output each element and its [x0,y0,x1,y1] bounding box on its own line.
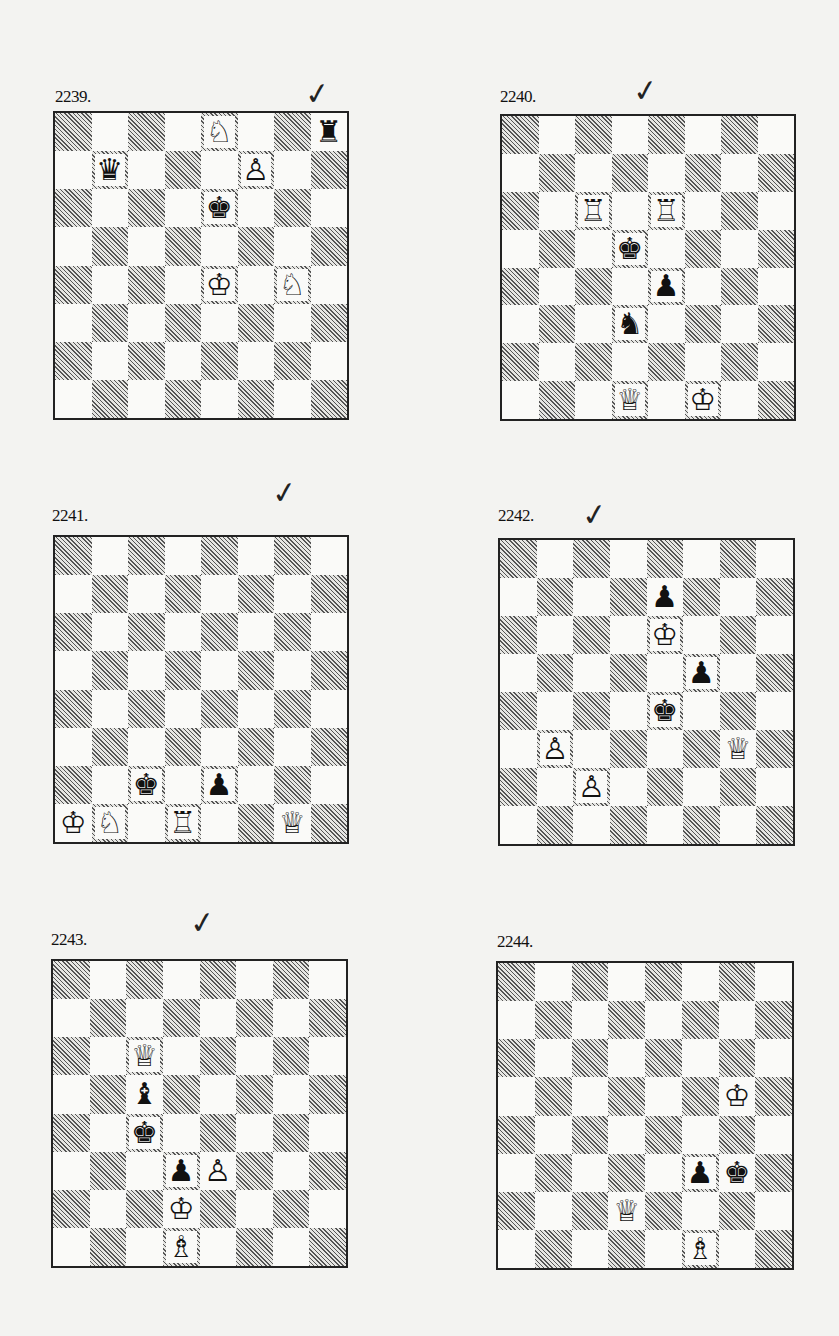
square-h6 [755,1039,792,1077]
square-c2: ♙ [573,768,610,806]
square-b8 [535,963,572,1001]
square-b5 [537,654,574,692]
square-c1 [126,1228,163,1266]
square-h5 [756,654,793,692]
square-d2 [612,343,649,381]
square-a3 [55,728,92,766]
square-d8 [608,963,645,1001]
check-mark-icon: ✓ [270,476,299,509]
square-g7 [721,154,758,192]
square-b7 [539,154,576,192]
square-e7 [648,154,685,192]
square-h1 [309,1228,346,1266]
square-g6 [719,1039,756,1077]
square-d1: ♗ [163,1228,200,1266]
square-h7 [311,151,348,189]
square-g8 [274,537,311,575]
square-a7 [55,151,92,189]
square-e1 [201,804,238,842]
square-e1 [201,380,238,418]
square-g2 [721,343,758,381]
square-h6 [756,616,793,654]
square-e3 [201,728,238,766]
square-g1 [274,380,311,418]
white-king-icon: ♔ [168,1194,195,1224]
square-a8 [498,963,535,1001]
square-b6 [90,1037,127,1075]
square-f6 [683,616,720,654]
square-d1 [610,806,647,844]
square-b2 [539,343,576,381]
square-a5 [55,227,92,265]
square-e1 [645,1230,682,1268]
square-d6 [163,1037,200,1075]
square-e7 [201,575,238,613]
square-e5 [200,1075,237,1113]
square-d6 [610,616,647,654]
square-a6 [498,1039,535,1077]
square-c2: ♚ [128,766,165,804]
square-h2 [756,768,793,806]
square-c8 [572,963,609,1001]
square-e2 [645,1192,682,1230]
square-b6 [539,192,576,230]
square-e7 [645,1001,682,1039]
square-d7 [610,578,647,616]
square-a4 [55,690,92,728]
square-f7: ♙ [238,151,275,189]
square-a4 [55,266,92,304]
square-c6: ♖ [575,192,612,230]
square-d7 [608,1001,645,1039]
square-h8 [755,963,792,1001]
square-b2 [92,342,129,380]
white-king-icon: ♔ [206,270,233,300]
square-d7 [612,154,649,192]
square-g5 [720,654,757,692]
square-a4 [53,1114,90,1152]
white-rook-icon: ♖ [169,808,196,838]
square-e8 [648,116,685,154]
square-c8 [573,540,610,578]
square-c2 [128,342,165,380]
white-pawn-icon: ♙ [578,772,605,802]
square-h5 [755,1077,792,1115]
square-h7 [758,154,795,192]
square-e4: ♚ [647,692,684,730]
chess-board: ♘♜♛♙♚♔♘ [53,111,349,420]
square-g7 [273,999,310,1037]
black-queen-icon: ♛ [96,155,123,185]
check-mark-icon: ✓ [631,74,660,107]
square-g2 [273,1190,310,1228]
square-e3 [647,730,684,768]
square-d2 [610,768,647,806]
square-f7 [683,578,720,616]
square-e8 [200,961,237,999]
square-a1 [53,1228,90,1266]
square-g1 [273,1228,310,1266]
square-e3: ♙ [200,1152,237,1190]
square-g8 [721,116,758,154]
square-f6 [238,189,275,227]
square-g4 [720,692,757,730]
white-rook-icon: ♖ [653,196,680,226]
square-d2 [165,766,202,804]
white-pawn-icon: ♙ [204,1156,231,1186]
square-f1: ♗ [682,1230,719,1268]
square-d1: ♖ [165,804,202,842]
square-h7 [755,1001,792,1039]
square-b7: ♛ [92,151,129,189]
square-g2 [274,342,311,380]
square-c1 [128,804,165,842]
square-b1 [92,380,129,418]
square-b7 [92,575,129,613]
square-d8 [165,537,202,575]
square-d6 [165,189,202,227]
square-g7 [719,1001,756,1039]
square-c8 [128,113,165,151]
square-c8 [126,961,163,999]
square-h8 [311,537,348,575]
square-a3 [500,730,537,768]
square-f2 [238,766,275,804]
square-b5 [92,651,129,689]
square-h6 [311,189,348,227]
